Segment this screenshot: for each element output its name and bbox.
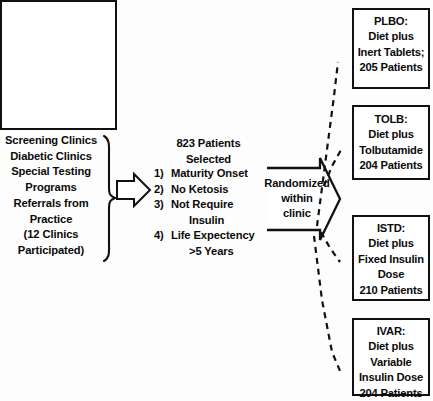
randomization-label: Randomized within clinic: [262, 176, 332, 221]
arm-label-ivar: IVAR: Diet plus Variable Insulin Dose 20…: [352, 324, 430, 401]
criteria-item: 1) Maturity Onset: [154, 166, 267, 182]
criteria-number: 4): [154, 228, 171, 244]
criteria-text: Maturity Onset: [171, 166, 267, 182]
selection-criteria-list: 1) Maturity Onset 2) No Ketosis 3) Not R…: [154, 166, 267, 260]
criteria-number: 3): [154, 197, 171, 213]
arm-label-istd: ISTD: Diet plus Fixed Insulin Dose 210 P…: [352, 221, 430, 298]
criteria-number: 1): [154, 166, 171, 182]
study-flow-diagram: Screening Clinics Diabetic Clinics Speci…: [0, 0, 433, 401]
criteria-text: Not Require: [171, 197, 267, 213]
source-brace-icon: [104, 136, 115, 261]
criteria-item: 2) No Ketosis: [154, 182, 267, 198]
source-clinics-label: Screening Clinics Diabetic Clinics Speci…: [0, 133, 102, 259]
criteria-text: Life Expectency: [171, 228, 267, 244]
arm-label-tolb: TOLB: Diet plus Tolbutamide 204 Patients: [352, 112, 430, 174]
criteria-text: No Ketosis: [171, 182, 267, 198]
criteria-continuation-row: Insulin: [154, 213, 267, 229]
arm-label-plbo: PLBO: Diet plus Inert Tablets; 205 Patie…: [352, 14, 430, 76]
criteria-item: 4) Life Expectency: [154, 228, 267, 244]
criteria-continuation-row: >5 Years: [154, 244, 267, 260]
arm-link-ivar: [314, 236, 340, 371]
arm-link-istd: [321, 232, 340, 262]
criteria-item: 3) Not Require: [154, 197, 267, 213]
selection-heading: 823 Patients Selected: [150, 136, 267, 167]
criteria-continuation: Insulin: [171, 213, 267, 229]
criteria-number: 2): [154, 182, 171, 198]
criteria-continuation: >5 Years: [171, 244, 267, 260]
intake-arrow-icon: [117, 174, 150, 206]
